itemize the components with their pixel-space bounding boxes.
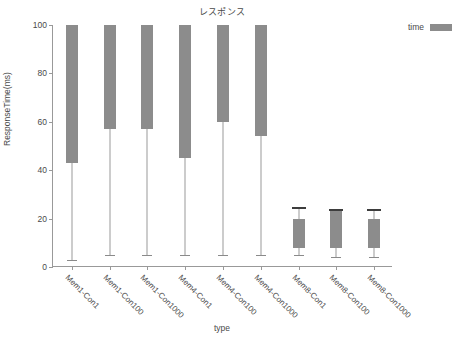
x-tick-mark [299, 266, 300, 270]
box-rect [330, 211, 342, 247]
x-tick-mark [374, 266, 375, 270]
whisker-cap-lower [369, 257, 379, 258]
whisker-lower [109, 129, 110, 255]
whisker-cap-lower [105, 255, 115, 256]
y-tick-label: 60 [38, 117, 47, 127]
x-tick-mark [336, 266, 337, 270]
box-rect [141, 25, 153, 129]
y-tick-mark [49, 25, 53, 26]
x-tick-mark [147, 266, 148, 270]
plot-area: 020406080100Mem1-Con1Mem1-Con100Mem1-Con… [52, 25, 392, 267]
box-plot-item[interactable] [293, 25, 305, 266]
x-axis-title: type [52, 323, 392, 333]
y-tick-mark [49, 267, 53, 268]
box-plot-item[interactable] [217, 25, 229, 266]
whisker-lower [147, 129, 148, 255]
whisker-lower [260, 136, 261, 255]
box-plot-item[interactable] [179, 25, 191, 266]
box-plot-item[interactable] [368, 25, 380, 266]
box-rect [293, 219, 305, 248]
whisker-cap-lower [180, 255, 190, 256]
y-tick-label: 100 [33, 20, 47, 30]
x-tick-mark [185, 266, 186, 270]
x-tick-mark [261, 266, 262, 270]
legend-entry-label: time [408, 22, 424, 32]
y-tick-label: 40 [38, 165, 47, 175]
box-plot-item[interactable] [255, 25, 267, 266]
x-tick-mark [223, 266, 224, 270]
x-tick-label: Mem8-Con1000 [366, 273, 413, 320]
y-tick-mark [49, 170, 53, 171]
x-tick-label: Mem8-Con1 [290, 273, 327, 310]
whisker-cap-upper [292, 207, 306, 209]
y-tick-mark [49, 73, 53, 74]
box-rect [104, 25, 116, 129]
box-rect [368, 219, 380, 248]
whisker-lower [336, 248, 337, 258]
whisker-cap-lower [331, 257, 341, 258]
y-axis-title: ResponseTime(ms) [2, 72, 12, 146]
x-tick-mark [110, 266, 111, 270]
box-rect [217, 25, 229, 122]
box-rect [179, 25, 191, 158]
whisker-lower [71, 163, 72, 260]
x-tick-mark [72, 266, 73, 270]
whisker-lower [223, 122, 224, 255]
whisker-cap-lower [67, 260, 77, 261]
plot-inner: 020406080100Mem1-Con1Mem1-Con100Mem1-Con… [53, 25, 392, 266]
legend: time [408, 22, 452, 32]
box-plot-item[interactable] [330, 25, 342, 266]
y-tick-label: 0 [42, 262, 47, 272]
whisker-cap-lower [218, 255, 228, 256]
y-tick-label: 20 [38, 214, 47, 224]
x-tick-label: Mem4-Con1 [177, 273, 214, 310]
y-tick-mark [49, 219, 53, 220]
whisker-lower [298, 248, 299, 255]
box-rect [66, 25, 78, 163]
chart-title: レスポンス [52, 5, 392, 18]
x-tick-label: Mem1-Con1 [64, 273, 101, 310]
y-tick-label: 80 [38, 68, 47, 78]
box-plot-item[interactable] [141, 25, 153, 266]
whisker-lower [185, 158, 186, 255]
whisker-cap-upper [367, 209, 381, 211]
whisker-cap-lower [294, 255, 304, 256]
whisker-lower [374, 248, 375, 258]
box-plot-item[interactable] [66, 25, 78, 266]
y-tick-mark [49, 122, 53, 123]
whisker-cap-lower [142, 255, 152, 256]
box-rect [255, 25, 267, 136]
whisker-cap-lower [256, 255, 266, 256]
boxplot-chart: レスポンス ResponseTime(ms) 020406080100Mem1-… [0, 0, 470, 345]
legend-swatch-icon [430, 24, 452, 31]
box-plot-item[interactable] [104, 25, 116, 266]
